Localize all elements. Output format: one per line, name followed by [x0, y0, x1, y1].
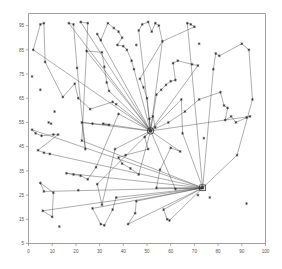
customer-node-marker	[209, 196, 212, 199]
customer-node-marker	[212, 68, 215, 71]
customer-node-marker	[158, 24, 161, 27]
customer-node-marker	[100, 223, 103, 226]
customer-node-marker	[58, 225, 61, 228]
x-tick-label: 70	[192, 249, 198, 254]
customer-node-marker	[181, 132, 184, 135]
customer-node-marker	[135, 44, 138, 47]
y-tick-label: 15	[19, 217, 25, 222]
customer-node-marker	[47, 121, 50, 124]
x-tick-label: 90	[239, 249, 245, 254]
x-tick-label: 20	[73, 249, 79, 254]
customer-node-marker	[166, 218, 169, 221]
customer-node-marker	[169, 146, 172, 149]
y-tick-label: 75	[19, 72, 25, 77]
customer-node-marker	[81, 139, 84, 142]
route-polyline	[32, 130, 203, 188]
customer-node-marker	[245, 202, 248, 205]
customer-node-marker	[190, 23, 193, 26]
customer-node-marker	[43, 22, 46, 25]
customer-node-marker	[31, 75, 34, 78]
y-tick-label: 85	[19, 48, 25, 53]
customer-node-marker	[142, 86, 145, 89]
customer-node-marker	[114, 148, 117, 151]
route-polyline	[97, 131, 150, 205]
route-polyline	[151, 99, 203, 187]
customer-node-marker	[52, 191, 55, 194]
customer-node-marker	[37, 149, 40, 152]
customer-node-marker	[162, 208, 165, 211]
x-tick-label: 80	[216, 249, 222, 254]
customer-node-marker	[148, 117, 151, 120]
customer-node-marker	[179, 150, 182, 153]
customer-node-marker	[76, 67, 79, 70]
customer-node-marker	[133, 68, 136, 71]
y-tick-label: 25	[19, 193, 25, 198]
y-tick-label: 35	[19, 169, 25, 174]
customer-node-marker	[137, 29, 140, 32]
customer-node-marker	[219, 91, 222, 94]
customer-node-marker	[111, 208, 114, 211]
x-tick-label: 100	[262, 249, 270, 254]
customer-node-marker	[154, 22, 157, 25]
y-tick-label: 65	[19, 96, 25, 101]
customer-node-marker	[77, 189, 80, 192]
x-tick-label: 40	[121, 249, 127, 254]
routes-layer	[32, 22, 252, 225]
customer-node-marker	[214, 52, 217, 55]
x-tick-label: 0	[27, 249, 30, 254]
x-tick-label: 50	[144, 249, 150, 254]
route-polyline	[92, 188, 202, 226]
customer-node-marker	[152, 115, 155, 118]
customer-node-marker	[50, 122, 53, 125]
route-polyline	[151, 131, 203, 189]
customer-node-marker	[150, 30, 153, 33]
customer-node-marker	[198, 42, 201, 45]
x-axis-ticks: 0102030405060708090100	[27, 244, 270, 254]
customer-node-marker	[111, 100, 114, 103]
customer-node-marker	[39, 88, 42, 91]
customer-node-marker	[172, 62, 175, 65]
customer-node-marker	[39, 182, 42, 185]
route-polyline	[151, 131, 203, 188]
customer-node-marker	[39, 23, 42, 26]
customer-node-marker	[101, 203, 104, 206]
x-tick-label: 30	[97, 249, 103, 254]
y-tick-label: 95	[19, 23, 25, 28]
customer-node-marker	[96, 33, 99, 36]
customer-node-marker	[51, 215, 54, 218]
route-polyline	[81, 22, 151, 131]
customer-node-marker	[117, 156, 120, 159]
route-polyline	[151, 61, 198, 131]
customer-node-marker	[197, 194, 200, 197]
customer-node-marker	[32, 48, 35, 51]
route-polyline	[139, 22, 163, 131]
customer-node-marker	[117, 30, 120, 33]
vrp-route-plot: 0102030405060708090100 51525354555657585…	[0, 0, 282, 269]
route-polyline	[97, 23, 150, 131]
customer-node-marker	[251, 98, 254, 101]
customer-node-marker	[141, 23, 144, 26]
customer-node-marker	[223, 104, 226, 107]
customer-node-marker	[44, 60, 47, 63]
customer-node-marker	[193, 25, 196, 28]
x-tick-label: 10	[50, 249, 56, 254]
x-tick-label: 60	[168, 249, 174, 254]
customer-node-marker	[53, 110, 56, 113]
depot-nodes-layer	[147, 128, 205, 191]
customer-node-marker	[203, 137, 206, 140]
customer-node-marker	[121, 162, 124, 165]
plot-canvas: 0102030405060708090100 51525354555657585…	[0, 0, 282, 269]
y-axis-ticks: 5152535455565758595	[19, 23, 29, 246]
customer-node-marker	[147, 21, 150, 24]
customer-node-marker	[107, 22, 110, 25]
y-tick-label: 55	[19, 120, 25, 125]
customer-node-marker	[186, 22, 189, 25]
customer-node-marker	[226, 106, 229, 109]
route-polyline	[203, 44, 253, 188]
customer-node-marker	[103, 224, 106, 227]
customer-node-marker	[139, 77, 142, 80]
customer-node-marker	[161, 40, 164, 43]
customer-node-marker	[146, 97, 149, 100]
customer-node-marker	[218, 54, 221, 57]
customer-node-marker	[147, 148, 150, 151]
